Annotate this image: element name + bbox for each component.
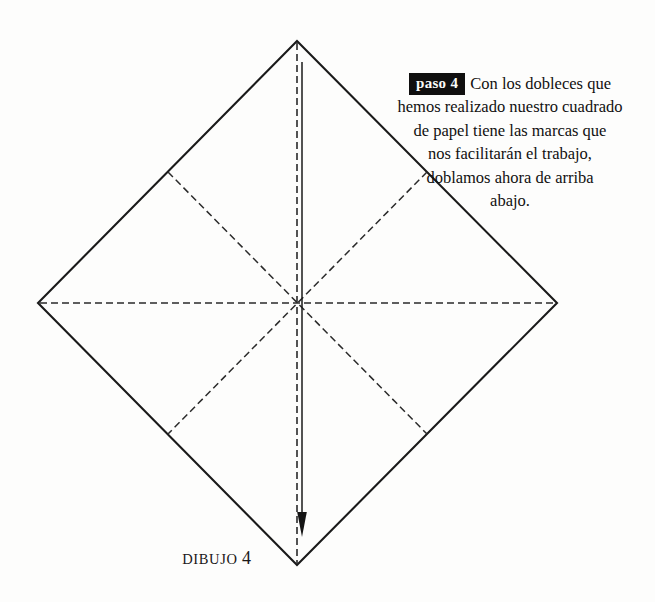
instruction-text-block: paso 4Con los dobleces que hemos realiza… [374, 72, 646, 213]
fold-arrow-head [297, 512, 307, 537]
step-badge: paso 4 [409, 73, 465, 95]
origami-instruction-page: paso 4Con los dobleces que hemos realiza… [0, 0, 655, 602]
figure-caption-word: DIBUJO [182, 551, 237, 567]
instruction-line-6: abajo. [374, 189, 646, 212]
instruction-line-1: Con los dobleces que [470, 74, 611, 93]
instruction-line-4: nos facilitarán el trabajo, [374, 142, 646, 165]
figure-caption: DIBUJO 4 [152, 548, 282, 569]
instruction-line-2: hemos realizado nuestro cuadrado [374, 95, 646, 118]
figure-caption-number: 4 [242, 548, 252, 568]
instruction-line-3: de papel tiene las marcas que [374, 119, 646, 142]
instruction-line-5: doblamos ahora de arriba [374, 166, 646, 189]
